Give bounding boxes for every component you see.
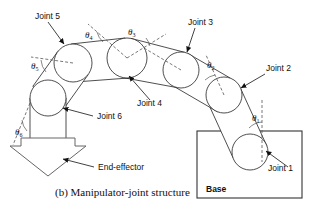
theta-3-subscript: 3	[132, 32, 135, 38]
figure-caption: (b) Manipulator-joint structure	[55, 186, 190, 199]
theta-5-label: θ5	[31, 61, 38, 72]
joint-1-circle	[232, 134, 268, 170]
joint-2-leader	[241, 74, 265, 88]
joint-3-label: Joint 3	[188, 17, 213, 27]
theta-4-label: θ4	[85, 30, 92, 41]
joint-5-leader	[48, 22, 64, 44]
joint-1-label: Joint 1	[268, 163, 293, 173]
theta-1-label: θ1	[252, 113, 259, 124]
figure-manipulator-joint-structure: Joint 1 Joint 2 Joint 3 Joint 4 Joint 5 …	[0, 0, 317, 210]
end-effector-shape	[10, 138, 86, 176]
joint-6-label: Joint 6	[97, 111, 122, 121]
joint-2-label: Joint 2	[266, 63, 291, 73]
theta-5-subscript: 5	[35, 66, 38, 72]
theta-3-label: θ3	[128, 27, 135, 38]
joint-6-circle	[30, 80, 66, 116]
theta-2-subscript: 2	[211, 65, 214, 71]
theta-6-subscript: 6	[19, 132, 22, 138]
joint-4-label: Joint 4	[137, 98, 162, 108]
joint-3-leader	[187, 28, 195, 52]
base-label: Base	[206, 184, 227, 194]
theta-1-subscript: 1	[256, 118, 259, 124]
theta-2-label: θ2	[207, 60, 214, 71]
end-effector-arrow	[10, 138, 86, 176]
theta-6-label: θ6	[15, 127, 22, 138]
end-effector-leader	[63, 159, 94, 167]
joint-6-leader	[63, 108, 93, 116]
theta-4-subscript: 4	[89, 35, 92, 41]
joint-5-label: Joint 5	[35, 11, 60, 21]
end-effector-label: End-effector	[98, 162, 144, 172]
manipulator-diagram: Joint 1 Joint 2 Joint 3 Joint 4 Joint 5 …	[0, 0, 317, 210]
